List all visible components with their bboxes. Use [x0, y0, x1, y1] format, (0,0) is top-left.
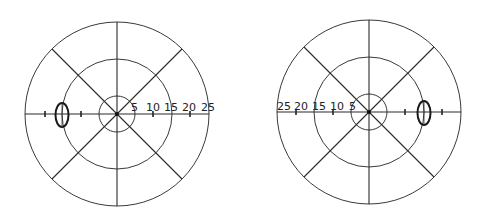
scale-label: 10	[330, 100, 344, 113]
scale-label: 25	[277, 100, 291, 113]
scale-label: 10	[146, 101, 160, 114]
scale-label: 15	[164, 101, 178, 114]
scale-label: 20	[294, 100, 308, 113]
fixation-point	[367, 110, 371, 114]
scale-label: 5	[131, 101, 138, 114]
diagram-canvas: 5 10 15 20 25 25 20 15 10 5	[0, 0, 484, 219]
scale-label: 5	[349, 100, 356, 113]
fixation-point	[115, 112, 119, 116]
scale-label: 25	[201, 101, 215, 114]
right-field-chart: 25 20 15 10 5	[277, 20, 461, 204]
scale-label: 20	[182, 101, 196, 114]
scale-label: 15	[312, 100, 326, 113]
left-field-chart: 5 10 15 20 25	[25, 22, 215, 206]
